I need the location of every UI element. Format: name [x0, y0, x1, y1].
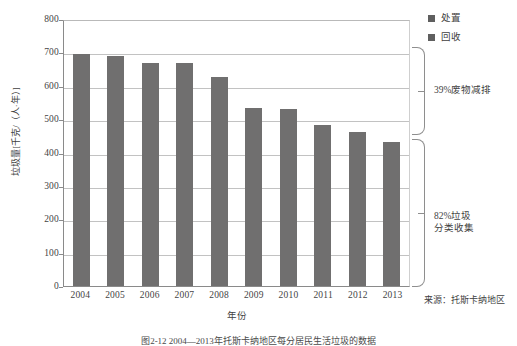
bar-slot — [168, 21, 203, 286]
bar-slot — [340, 21, 375, 286]
y-tick-label: 800 — [44, 15, 59, 25]
x-axis-title: 年份 — [63, 308, 410, 322]
y-tick-label: 400 — [44, 149, 59, 159]
x-tick-label: 2013 — [375, 288, 410, 308]
bar-slot — [133, 21, 168, 286]
legend-item-disposal[interactable]: 处置 — [428, 14, 461, 24]
x-tick-label: 2007 — [167, 288, 202, 308]
bracket-waste-reduction — [412, 47, 425, 135]
bar-2010[interactable] — [280, 109, 297, 286]
x-axis: 2004200520062007200820092010201120122013 — [63, 288, 410, 308]
annotation-line-1: 82%垃圾 — [434, 210, 474, 222]
bar-2005[interactable] — [107, 56, 124, 286]
x-tick-label: 2008 — [202, 288, 237, 308]
legend-swatch-icon — [428, 15, 435, 22]
annotation-line-2: 分类收集 — [434, 222, 474, 234]
legend-label: 回收 — [441, 33, 461, 43]
x-tick-label: 2009 — [236, 288, 271, 308]
bar-slot — [64, 21, 99, 286]
x-tick-label: 2012 — [341, 288, 376, 308]
legend-item-recycling[interactable]: 回收 — [428, 33, 461, 43]
bar-slot — [271, 21, 306, 286]
annotation-waste-reduction: 39%废物减排 — [434, 84, 491, 96]
bar-2008[interactable] — [211, 77, 228, 286]
y-tick-label: 200 — [44, 216, 59, 226]
legend: 处置 回收 — [428, 14, 461, 42]
bar-2009[interactable] — [245, 108, 262, 286]
bar-series — [64, 21, 409, 286]
annotation-sorted-collection: 82%垃圾 分类收集 — [434, 210, 474, 234]
bar-2007[interactable] — [176, 63, 193, 286]
bar-slot — [375, 21, 410, 286]
x-tick-label: 2006 — [132, 288, 167, 308]
y-tick-label: 500 — [44, 115, 59, 125]
y-tick-label: 700 — [44, 49, 59, 59]
bracket-nub — [418, 213, 424, 214]
bar-2006[interactable] — [142, 63, 159, 286]
figure-container: 0 100 200 300 400 500 600 700 800 垃圾量[千克… — [0, 0, 517, 346]
plot-area — [63, 20, 410, 287]
y-axis: 0 100 200 300 400 500 600 700 800 垃圾量[千克… — [0, 20, 63, 287]
y-tick-label: 100 — [44, 249, 59, 259]
bracket-sorted-collection — [412, 139, 425, 287]
bar-2013[interactable] — [383, 142, 400, 286]
bar-2012[interactable] — [349, 132, 366, 286]
y-tick-label: 300 — [44, 182, 59, 192]
bar-slot — [237, 21, 272, 286]
bar-slot — [99, 21, 134, 286]
legend-swatch-icon — [428, 34, 435, 41]
bar-2004[interactable] — [73, 54, 90, 286]
y-axis-title: 垃圾量[千克/（人·年）] — [11, 32, 22, 232]
x-tick-label: 2011 — [306, 288, 341, 308]
bar-slot — [306, 21, 341, 286]
bar-slot — [202, 21, 237, 286]
legend-label: 处置 — [441, 14, 461, 24]
bracket-nub — [418, 91, 424, 92]
x-tick-label: 2010 — [271, 288, 306, 308]
bar-2011[interactable] — [314, 125, 331, 286]
source-note: 来源：托斯卡纳地区 — [424, 293, 505, 306]
y-tick-label: 600 — [44, 82, 59, 92]
x-tick-label: 2004 — [63, 288, 98, 308]
x-tick-label: 2005 — [98, 288, 133, 308]
figure-caption: 图2-12 2004—2013年托斯卡纳地区每分居民生活垃圾的数据 — [0, 336, 517, 346]
